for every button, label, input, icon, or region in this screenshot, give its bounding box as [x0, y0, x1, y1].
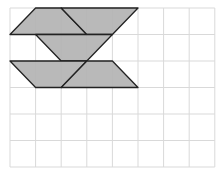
grid-diagram [0, 0, 222, 175]
trapezoid-middle [36, 35, 113, 62]
shaded-shapes [10, 8, 138, 88]
